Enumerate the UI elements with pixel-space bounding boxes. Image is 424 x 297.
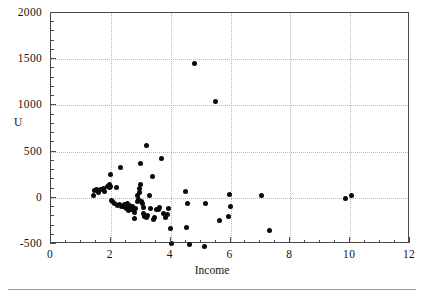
- data-point: [192, 61, 197, 66]
- data-point: [108, 172, 113, 177]
- x-tick-label: 4: [167, 248, 173, 260]
- y-tick-label: 1000: [0, 98, 42, 110]
- data-point: [138, 161, 143, 166]
- y-minor-tick: [50, 123, 54, 124]
- data-point: [138, 182, 143, 187]
- data-point: [187, 242, 192, 247]
- data-point: [157, 205, 162, 210]
- data-point: [144, 143, 149, 148]
- plot-area: [50, 12, 409, 243]
- data-point: [203, 201, 208, 206]
- y-major-tick: [50, 104, 56, 105]
- data-point: [145, 213, 150, 218]
- y-minor-tick: [50, 95, 54, 96]
- y-tick-label: 1500: [0, 52, 42, 64]
- x-minor-tick: [364, 240, 365, 244]
- gridline-vertical: [171, 13, 172, 242]
- data-point: [343, 196, 348, 201]
- data-point: [132, 216, 137, 221]
- x-minor-tick: [379, 240, 380, 244]
- data-point: [152, 215, 157, 220]
- data-point: [141, 205, 146, 210]
- y-minor-tick: [50, 225, 54, 226]
- x-minor-tick: [155, 240, 156, 244]
- data-point: [213, 99, 218, 104]
- data-point: [114, 185, 119, 190]
- x-minor-tick: [200, 240, 201, 244]
- data-point: [349, 193, 354, 198]
- x-minor-tick: [125, 240, 126, 244]
- y-minor-tick: [50, 206, 54, 207]
- x-major-tick: [50, 237, 51, 243]
- y-major-tick: [50, 197, 56, 198]
- x-major-tick: [110, 237, 111, 243]
- y-major-tick: [50, 12, 56, 13]
- scatter-plot-figure: -5000500100015002000 024681012 U Income: [0, 0, 424, 297]
- y-tick-label: 0: [0, 191, 42, 203]
- x-minor-tick: [80, 240, 81, 244]
- data-point: [217, 218, 222, 223]
- footer-divider: [8, 289, 416, 290]
- x-major-tick: [170, 237, 171, 243]
- y-minor-tick: [50, 40, 54, 41]
- x-major-tick: [349, 237, 350, 243]
- x-tick-label: 10: [343, 248, 355, 260]
- y-minor-tick: [50, 49, 54, 50]
- data-point: [102, 189, 107, 194]
- gridline-vertical: [290, 13, 291, 242]
- x-tick-label: 0: [47, 248, 53, 260]
- y-minor-tick: [50, 30, 54, 31]
- y-minor-tick: [50, 86, 54, 87]
- x-minor-tick: [95, 240, 96, 244]
- x-tick-label: 12: [403, 248, 415, 260]
- x-minor-tick: [319, 240, 320, 244]
- data-point: [148, 206, 153, 211]
- y-minor-tick: [50, 132, 54, 133]
- y-minor-tick: [50, 188, 54, 189]
- data-point: [228, 204, 233, 209]
- y-tick-label: 500: [0, 145, 42, 157]
- data-point: [185, 201, 190, 206]
- data-point: [184, 225, 189, 230]
- y-major-tick: [50, 243, 56, 244]
- y-tick-label: 2000: [0, 6, 42, 18]
- y-minor-tick: [50, 215, 54, 216]
- y-tick-label: -500: [0, 237, 42, 249]
- data-point: [108, 184, 113, 189]
- x-minor-tick: [304, 240, 305, 244]
- data-point: [133, 206, 138, 211]
- data-point: [267, 228, 272, 233]
- gridline-horizontal: [51, 152, 408, 153]
- gridline-horizontal: [51, 59, 408, 60]
- y-minor-tick: [50, 141, 54, 142]
- x-major-tick: [409, 237, 410, 243]
- gridline-vertical: [350, 13, 351, 242]
- x-major-tick: [289, 237, 290, 243]
- gridline-horizontal: [51, 198, 408, 199]
- x-tick-label: 2: [107, 248, 113, 260]
- y-minor-tick: [50, 77, 54, 78]
- x-axis-title: Income: [0, 264, 424, 276]
- gridline-horizontal: [51, 105, 408, 106]
- x-minor-tick: [185, 240, 186, 244]
- y-axis-title: U: [14, 116, 22, 128]
- data-point: [165, 212, 170, 217]
- x-minor-tick: [244, 240, 245, 244]
- x-minor-tick: [65, 240, 66, 244]
- y-major-tick: [50, 151, 56, 152]
- y-minor-tick: [50, 21, 54, 22]
- data-point: [147, 193, 152, 198]
- data-point: [227, 192, 232, 197]
- gridline-vertical: [111, 13, 112, 242]
- x-tick-label: 8: [286, 248, 292, 260]
- y-major-tick: [50, 58, 56, 59]
- data-point: [202, 244, 207, 249]
- x-minor-tick: [274, 240, 275, 244]
- y-minor-tick: [50, 160, 54, 161]
- y-minor-tick: [50, 234, 54, 235]
- data-point: [183, 189, 188, 194]
- data-point: [159, 156, 164, 161]
- y-minor-tick: [50, 67, 54, 68]
- data-point: [118, 165, 123, 170]
- x-minor-tick: [334, 240, 335, 244]
